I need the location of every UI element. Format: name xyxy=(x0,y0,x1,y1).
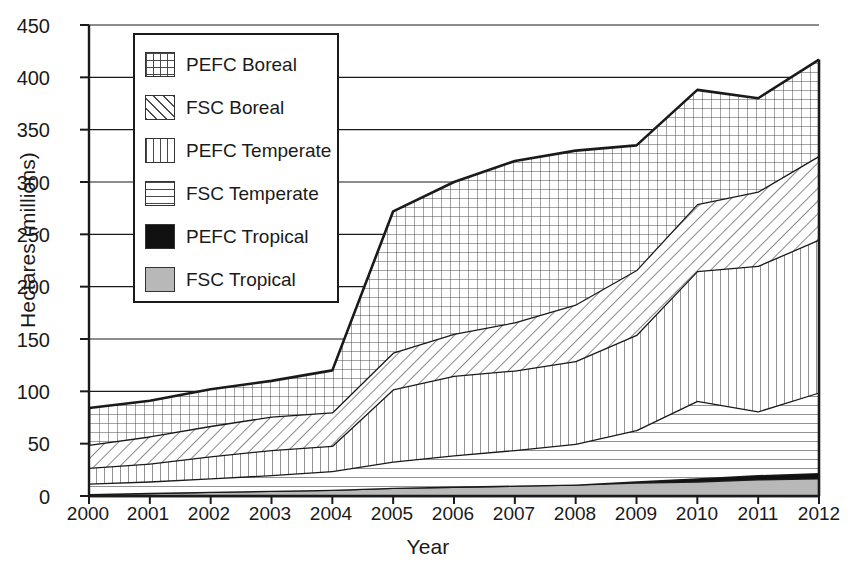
legend-label: FSC Temperate xyxy=(186,183,319,205)
legend-label: PEFC Temperate xyxy=(186,140,331,162)
legend-item-fsc-tropical: FSC Tropical xyxy=(145,258,337,301)
horizontal-lines-swatch-icon xyxy=(145,181,175,206)
legend-item-pefc-temperate: PEFC Temperate xyxy=(145,129,337,172)
legend: PEFC Boreal FSC Boreal PEFC Temperate FS… xyxy=(133,33,339,303)
plot-area xyxy=(0,0,856,576)
legend-item-fsc-temperate: FSC Temperate xyxy=(145,172,337,215)
solid-black-swatch-icon xyxy=(145,224,175,249)
grid-crosshatch-swatch-icon xyxy=(145,52,175,77)
legend-label: FSC Tropical xyxy=(186,269,296,291)
legend-item-pefc-boreal: PEFC Boreal xyxy=(145,43,337,86)
legend-item-pefc-tropical: PEFC Tropical xyxy=(145,215,337,258)
legend-item-fsc-boreal: FSC Boreal xyxy=(145,86,337,129)
legend-label: FSC Boreal xyxy=(186,97,284,119)
legend-label: PEFC Boreal xyxy=(186,54,297,76)
stacked-area-chart: Hectares (millions) Year 450 400 350 300… xyxy=(0,0,856,576)
legend-label: PEFC Tropical xyxy=(186,226,308,248)
solid-gray-swatch-icon xyxy=(145,267,175,292)
diagonal-hatch-swatch-icon xyxy=(145,95,175,120)
vertical-lines-swatch-icon xyxy=(145,138,175,163)
